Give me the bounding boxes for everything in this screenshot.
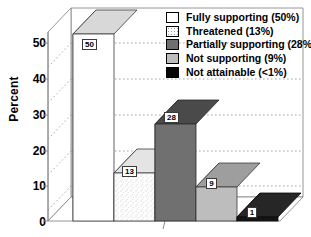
legend-item-fully-supporting: Fully supporting (50%) [166, 11, 308, 25]
legend-label-not-attainable: Not attainable (<1%) [186, 67, 287, 78]
legend-swatch-partially-supporting [166, 39, 179, 50]
legend-item-not-supporting: Not supporting (9%) [166, 52, 308, 66]
value-label-not-supporting: 9 [206, 178, 217, 189]
x-axis-tick [163, 221, 165, 229]
legend-item-not-attainable: Not attainable (<1%) [166, 65, 308, 79]
legend: Fully supporting (50%) Threatened (13%) … [166, 11, 308, 79]
legend-item-threatened: Threatened (13%) [166, 25, 308, 39]
legend-label-not-supporting: Not supporting (9%) [186, 53, 286, 64]
legend-label-partially-supporting: Partially supporting (28%) [186, 39, 311, 50]
legend-item-partially-supporting: Partially supporting (28%) [166, 38, 308, 52]
value-label-threatened: 13 [122, 166, 137, 177]
y-axis-line [43, 32, 48, 221]
value-label-partially-supporting: 28 [164, 112, 179, 123]
value-label-fully-supporting: 50 [82, 39, 97, 50]
legend-swatch-not-supporting [166, 53, 179, 64]
legend-label-fully-supporting: Fully supporting (50%) [186, 12, 299, 23]
legend-swatch-fully-supporting [166, 12, 179, 23]
legend-swatch-not-attainable [166, 67, 179, 78]
legend-swatch-threatened [166, 26, 179, 37]
legend-label-threatened: Threatened (13%) [186, 26, 274, 37]
bar-chart: Percent 50 40 30 20 10 0 [0, 0, 311, 237]
value-label-not-attainable: 1 [247, 207, 257, 218]
